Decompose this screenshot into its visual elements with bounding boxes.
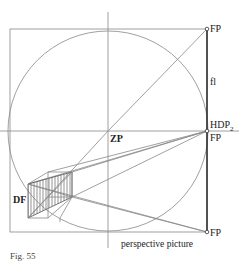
ray-2 (72, 131, 207, 172)
label-df: DF (13, 194, 26, 205)
perspective-construction-diagram: FP fl HDP2 FP ZP DF FP perspective pictu… (0, 0, 239, 261)
label-fl: fl (210, 76, 216, 87)
label-fp-top: FP (210, 23, 222, 34)
fp-bottom-point (205, 230, 209, 234)
label-fp-mid: FP (210, 132, 222, 143)
label-zp: ZP (110, 133, 123, 144)
ray-6 (72, 197, 207, 232)
label-fp-bottom: FP (210, 227, 222, 238)
figure-caption: Fig. 55 (10, 251, 36, 261)
ray-4 (48, 131, 207, 172)
label-perspective-picture: perspective picture (121, 239, 193, 249)
fp-mid-point (205, 129, 209, 133)
fp-top-point (205, 27, 209, 31)
ray-3 (72, 131, 207, 197)
